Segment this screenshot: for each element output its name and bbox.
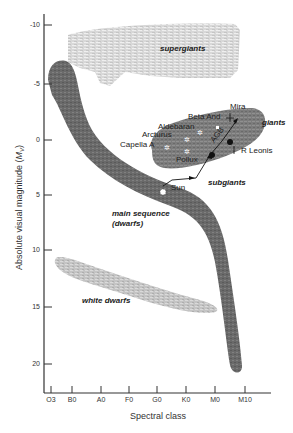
giants-label: giants — [261, 118, 286, 127]
mira-label: Mira — [230, 102, 246, 111]
track-arrow-1 — [189, 176, 195, 180]
x-tick-label: M10 — [238, 396, 252, 403]
y-tick-label: 20 — [32, 360, 40, 367]
supergiants-region — [68, 24, 240, 86]
capella-label: Capella A — [120, 140, 155, 149]
x-tick-label: A0 — [97, 396, 106, 403]
hr-diagram: supergiants giants white dwarfs main seq… — [0, 0, 293, 433]
y-tick-label: -5 — [34, 80, 40, 87]
y-tick-label: 10 — [32, 246, 40, 253]
svg-text:✲: ✲ — [184, 136, 190, 143]
track-dot-2 — [227, 139, 233, 145]
white-dwarfs-label: white dwarfs — [82, 296, 131, 305]
dwarfs-label: (dwarfs) — [112, 219, 143, 228]
x-tick-label: F0 — [125, 396, 133, 403]
x-tick-label: K0 — [182, 396, 191, 403]
svg-text:✲: ✲ — [184, 148, 190, 155]
arcturus-label: Arcturus — [142, 130, 172, 139]
supergiants-label: supergiants — [160, 44, 206, 53]
y-tick-label: 15 — [32, 303, 40, 310]
r-leonis-label: R Leonis — [241, 146, 273, 155]
sun-label: Sun — [171, 183, 185, 192]
svg-text:✲: ✲ — [164, 144, 170, 151]
x-tick-label: O3 — [46, 396, 55, 403]
x-tick-label: M0 — [210, 396, 220, 403]
x-ticks — [51, 386, 245, 393]
y-tick-label: 5 — [36, 191, 40, 198]
y-tick-label: 0 — [36, 136, 40, 143]
y-tick-label: -10 — [30, 21, 40, 28]
aldebaran-label: Aldebaran — [158, 122, 194, 131]
track-dot-1 — [209, 152, 215, 158]
beta-and-label: Beta And — [188, 112, 220, 121]
x-tick-label: G0 — [152, 396, 161, 403]
subgiants-label: subgiants — [208, 178, 246, 187]
y-axis-title: Absolute visual magnitude (MV) — [14, 145, 25, 270]
svg-text:✲: ✲ — [197, 129, 203, 136]
white-dwarfs-region — [55, 257, 218, 313]
x-axis-title: Spectral class — [130, 411, 187, 421]
pollux-label: Pollux — [176, 155, 198, 164]
x-tick-label: B0 — [68, 396, 77, 403]
main-sequence-label: main sequence — [112, 209, 170, 218]
